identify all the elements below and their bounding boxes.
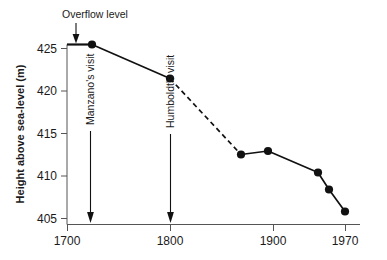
series-segment-solid-late — [241, 151, 345, 212]
y-tick-label-415: 415 — [37, 127, 57, 141]
y-tick-label-420: 420 — [37, 84, 57, 98]
y-tick-label-425: 425 — [37, 42, 57, 56]
x-tick-label-1970: 1970 — [332, 234, 359, 248]
x-tick-label-1700: 1700 — [54, 234, 81, 248]
series-segment-solid-early — [92, 45, 170, 79]
axes-group — [67, 45, 360, 225]
series-segment-dashed-inferred — [170, 79, 241, 155]
data-point-1895 — [264, 147, 272, 155]
annotation-humboldt-visit-label: Humboldt's visit — [164, 55, 176, 128]
data-point-1723 — [88, 40, 96, 48]
annotation-manzano-visit-label: Manzano's visit — [84, 53, 96, 125]
y-tick-label-405: 405 — [37, 212, 57, 226]
annotation-humboldt-visit: Humboldt's visit — [164, 55, 176, 223]
data-point-1945 — [314, 168, 322, 176]
annotation-manzano-visit-arrow-head — [87, 212, 94, 223]
annotation-overflow-level-arrow-head — [73, 34, 80, 44]
data-point-1955 — [325, 185, 333, 193]
y-axis-ticks: 405 410 415 420 425 — [37, 42, 67, 226]
x-tick-label-1900: 1900 — [260, 234, 287, 248]
data-point-1968 — [341, 207, 349, 215]
chart-figure: 405 410 415 420 425 1700 1800 1900 1970 … — [0, 0, 387, 260]
annotation-humboldt-visit-arrow-head — [167, 212, 174, 223]
annotation-overflow-level: Overflow level — [62, 8, 128, 44]
y-tick-label-410: 410 — [37, 169, 57, 183]
x-axis-ticks: 1700 1800 1900 1970 — [54, 225, 359, 249]
annotation-overflow-level-label: Overflow level — [62, 8, 128, 20]
annotation-manzano-visit: Manzano's visit — [84, 53, 96, 223]
data-point-1870 — [237, 150, 245, 158]
series-markers — [88, 40, 349, 215]
line-chart-canvas: 405 410 415 420 425 1700 1800 1900 1970 … — [0, 0, 387, 260]
y-axis-title: Height above sea-level (m) — [14, 64, 26, 203]
x-tick-label-1800: 1800 — [157, 234, 184, 248]
